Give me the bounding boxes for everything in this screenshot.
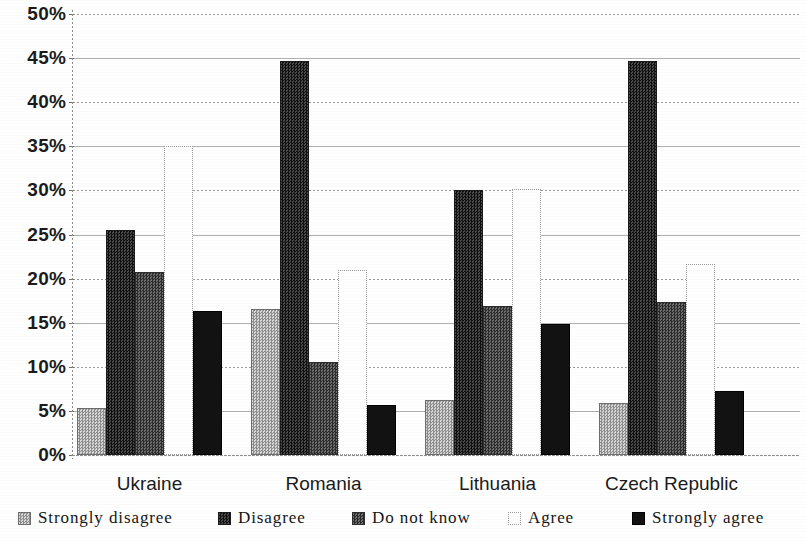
swatch-strongly-agree-icon xyxy=(632,512,645,525)
y-axis-line xyxy=(72,10,73,459)
y-axis-tick-label: 10% xyxy=(4,356,66,378)
bar-lithuania-strongly-disagree xyxy=(425,400,454,455)
y-axis-tick-label: 45% xyxy=(4,47,66,69)
x-axis-line xyxy=(72,455,800,456)
bar-romania-do-not-know xyxy=(309,362,338,455)
y-axis-tick-label: 0% xyxy=(4,444,66,466)
bar-ukraine-agree xyxy=(164,146,193,455)
bar-romania-agree xyxy=(338,270,367,455)
y-axis-tick-label: 25% xyxy=(4,224,66,246)
plot-area xyxy=(73,14,800,455)
legend-item-agree[interactable]: Agree xyxy=(508,508,574,528)
bar-lithuania-agree xyxy=(512,189,541,455)
bar-ukraine-strongly-disagree xyxy=(77,408,106,455)
bar-lithuania-do-not-know xyxy=(483,306,512,455)
y-axis-tick-label: 15% xyxy=(4,312,66,334)
bar-czech-republic-agree xyxy=(686,264,715,455)
bar-romania-strongly-agree xyxy=(367,405,396,455)
swatch-strongly-disagree-icon xyxy=(18,512,31,525)
x-axis-label-czech-republic: Czech Republic xyxy=(562,473,782,495)
bar-czech-republic-strongly-agree xyxy=(715,391,744,455)
legend-item-do-not-know[interactable]: Do not know xyxy=(352,508,471,528)
gridline-45 xyxy=(73,58,800,59)
legend-item-disagree[interactable]: Disagree xyxy=(218,508,306,528)
legend-item-strongly-agree[interactable]: Strongly agree xyxy=(632,508,764,528)
bar-romania-disagree xyxy=(280,61,309,455)
x-axis-category-labels: UkraineRomaniaLithuaniaCzech Republic xyxy=(0,473,806,499)
bar-czech-republic-strongly-disagree xyxy=(599,403,628,455)
swatch-disagree-icon xyxy=(218,512,231,525)
legend-label: Strongly agree xyxy=(652,508,764,528)
bar-czech-republic-do-not-know xyxy=(657,302,686,455)
legend-label: Strongly disagree xyxy=(38,508,173,528)
y-axis-tick-label: 30% xyxy=(4,179,66,201)
y-axis-tick-label: 50% xyxy=(4,3,66,25)
bar-lithuania-disagree xyxy=(454,190,483,455)
legend-label: Agree xyxy=(528,508,574,528)
bar-romania-strongly-disagree xyxy=(251,309,280,455)
y-axis-tick-label: 35% xyxy=(4,135,66,157)
bar-ukraine-strongly-agree xyxy=(193,311,222,455)
legend-label: Do not know xyxy=(372,508,471,528)
bar-ukraine-do-not-know xyxy=(135,272,164,455)
y-axis-tick-label: 5% xyxy=(4,400,66,422)
legend-label: Disagree xyxy=(238,508,306,528)
swatch-do-not-know-icon xyxy=(352,512,365,525)
gridline-40 xyxy=(73,102,800,103)
gridline-50 xyxy=(73,14,800,15)
swatch-agree-icon xyxy=(508,512,521,525)
y-axis-labels: 0%5%10%15%20%25%30%35%40%45%50% xyxy=(0,14,66,455)
legend-item-strongly-disagree[interactable]: Strongly disagree xyxy=(18,508,173,528)
bar-lithuania-strongly-agree xyxy=(541,324,570,455)
y-axis-tick-label: 20% xyxy=(4,268,66,290)
bar-chart: 0%5%10%15%20%25%30%35%40%45%50% UkraineR… xyxy=(0,0,806,541)
bar-czech-republic-disagree xyxy=(628,61,657,455)
bar-ukraine-disagree xyxy=(106,230,135,455)
y-axis-tick-label: 40% xyxy=(4,91,66,113)
chart-legend: Strongly disagreeDisagreeDo not knowAgre… xyxy=(0,505,806,535)
